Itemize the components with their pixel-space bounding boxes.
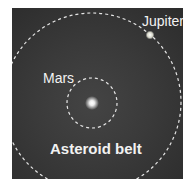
jupiter-label: Jupiter [142, 14, 183, 28]
sun-icon [85, 96, 99, 110]
asteroid-belt-label: Asteroid belt [50, 141, 142, 156]
mars-label: Mars [43, 71, 74, 85]
solar-system-diagram: Jupiter Mars Asteroid belt [12, 8, 183, 179]
jupiter-icon [146, 31, 155, 40]
